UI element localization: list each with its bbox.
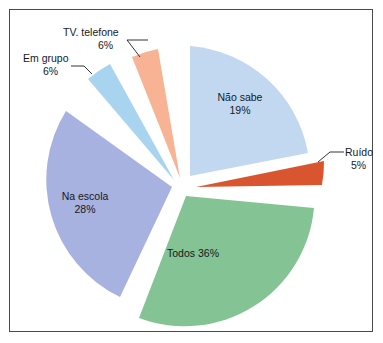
pie-slice-tv-telefone-percent: 6% [98,39,113,51]
pie-slice-em-grupo-percent: 6% [43,65,58,77]
pie-slice-na-escola-percent: 28% [74,203,95,215]
pie-slice-todos-label: Todos 36% [167,247,219,259]
pie-chart-figure: Não sabe 19% Ruído 5% Todos 36% Na escol… [0,0,383,343]
pie-slice-nao-sabe-percent: 19% [229,104,250,116]
pie-slice-todos-wedge[interactable] [139,196,314,326]
pie-slice-em-grupo-label: Em grupo [23,52,69,64]
pie-slice-nao-sabe[interactable]: Não sabe 19% [190,46,308,176]
pie-slice-na-escola[interactable]: Na escola 28% [46,111,172,297]
pie-slice-na-escola-label: Na escola [62,190,109,202]
pie-slice-nao-sabe-label: Não sabe [218,91,263,103]
pie-slice-ruido-label: Ruído [345,146,373,158]
pie-slice-em-grupo-leader-line [71,66,92,74]
pie-chart-svg: Não sabe 19% Ruído 5% Todos 36% Na escol… [0,0,383,343]
pie-slice-ruido-percent: 5% [351,159,366,171]
pie-slice-na-escola-wedge[interactable] [46,111,172,297]
pie-slice-todos[interactable]: Todos 36% [139,196,314,326]
pie-slice-tv-telefone-label: TV. telefone [63,26,119,38]
pie-slice-ruido-leader-line [318,152,344,162]
